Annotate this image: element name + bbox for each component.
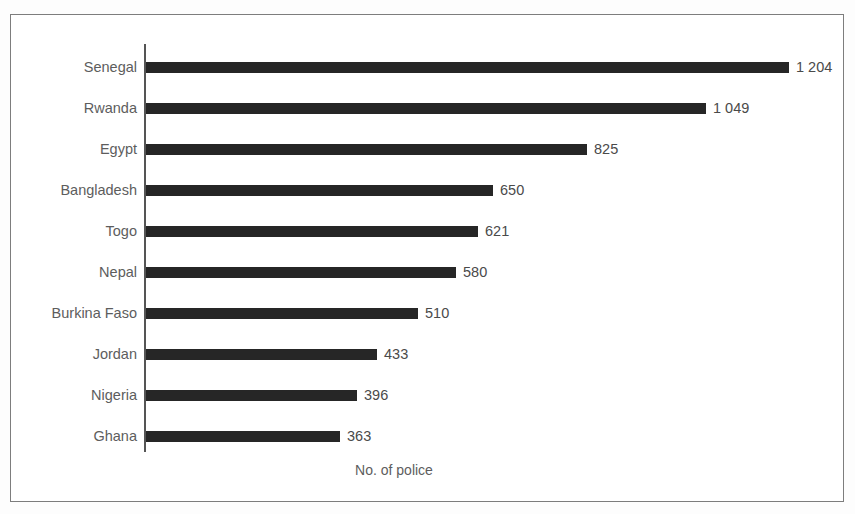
- category-label: Togo: [11, 211, 137, 252]
- chart-frame: Senegal1 204Rwanda1 049Egypt825Banglades…: [10, 14, 844, 502]
- bar-value-label: 580: [463, 252, 487, 293]
- category-label: Jordan: [11, 334, 137, 375]
- bar-row: Rwanda1 049: [11, 88, 845, 129]
- bar-row: Senegal1 204: [11, 47, 845, 88]
- chart-figure: Senegal1 204Rwanda1 049Egypt825Banglades…: [0, 0, 855, 514]
- category-label: Burkina Faso: [11, 293, 137, 334]
- bar-value-label: 650: [500, 170, 524, 211]
- category-label: Bangladesh: [11, 170, 137, 211]
- category-label: Egypt: [11, 129, 137, 170]
- bar-row: Egypt825: [11, 129, 845, 170]
- bar-row: Jordan433: [11, 334, 845, 375]
- bar-row: Ghana363: [11, 416, 845, 457]
- bar-value-label: 1 204: [796, 47, 832, 88]
- bar: [146, 431, 340, 442]
- bar-row: Burkina Faso510: [11, 293, 845, 334]
- category-label: Rwanda: [11, 88, 137, 129]
- bar: [146, 308, 418, 319]
- bar-row: Bangladesh650: [11, 170, 845, 211]
- bar-value-label: 363: [347, 416, 371, 457]
- bar-row: Togo621: [11, 211, 845, 252]
- bar: [146, 185, 493, 196]
- plot-area: Senegal1 204Rwanda1 049Egypt825Banglades…: [11, 15, 845, 503]
- bar: [146, 62, 789, 73]
- bar: [146, 226, 478, 237]
- bar-value-label: 396: [364, 375, 388, 416]
- category-label: Nigeria: [11, 375, 137, 416]
- bar: [146, 103, 706, 114]
- bar-value-label: 621: [485, 211, 509, 252]
- bar-value-label: 510: [425, 293, 449, 334]
- x-axis-title: No. of police: [144, 462, 644, 478]
- category-label: Nepal: [11, 252, 137, 293]
- bar: [146, 349, 377, 360]
- bar: [146, 144, 587, 155]
- bar-row: Nepal580: [11, 252, 845, 293]
- bar-value-label: 433: [384, 334, 408, 375]
- bar: [146, 390, 357, 401]
- category-label: Ghana: [11, 416, 137, 457]
- bar: [146, 267, 456, 278]
- bar-row: Nigeria396: [11, 375, 845, 416]
- category-label: Senegal: [11, 47, 137, 88]
- bar-value-label: 1 049: [713, 88, 749, 129]
- bar-value-label: 825: [594, 129, 618, 170]
